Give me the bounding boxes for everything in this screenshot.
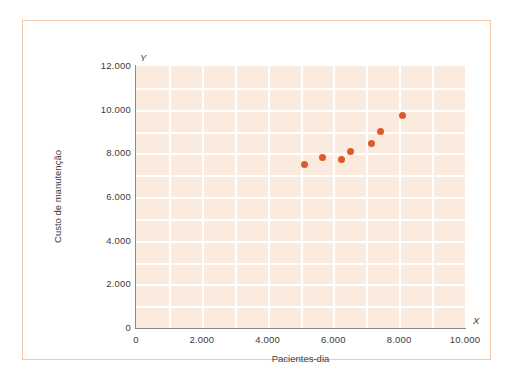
x-axis-tick-labels: 02.0004.0006.0008.00010.000 [23,334,513,350]
gridline-horizontal [136,88,465,90]
y-axis-title: Custo de manutenção [52,97,63,297]
gridline-horizontal [136,241,465,243]
x-axis-tick-label: 2.000 [172,334,232,345]
x-axis-title: Pacientes-dia [136,353,465,364]
scatter-chart-figure: 02.0004.0006.0008.00010.00012.000 02.000… [0,0,513,382]
gridline-horizontal [136,306,465,308]
x-axis-tick-label: 0 [106,334,166,345]
y-axis-letter: Y [140,52,146,63]
y-axis-tick-label: 6.000 [73,191,131,202]
x-axis-letter: X [473,315,479,326]
plot-area [136,66,465,328]
x-axis-tick-label: 6.000 [303,334,363,345]
y-axis-tick-label: 2.000 [73,278,131,289]
y-axis-tick-label: 10.000 [73,104,131,115]
y-axis-tick-label: 8.000 [73,147,131,158]
gridline-horizontal [136,263,465,265]
data-point [319,154,326,161]
gridline-horizontal [136,219,465,221]
gridline-horizontal [136,132,465,134]
data-point [399,112,406,119]
data-point [338,156,345,163]
x-axis-line [135,328,466,329]
x-axis-tick-label: 8.000 [369,334,429,345]
gridline-horizontal [136,153,465,155]
y-axis-tick-labels: 02.0004.0006.0008.00010.00012.000 [71,21,131,382]
y-axis-line [135,65,136,329]
gridline-horizontal [136,175,465,177]
data-point [377,128,384,135]
gridline-horizontal [136,197,465,199]
figure-frame: 02.0004.0006.0008.00010.00012.000 02.000… [22,20,491,360]
data-point [347,148,354,155]
gridline-horizontal [136,110,465,112]
data-point [368,140,375,147]
data-point [301,161,308,168]
gridline-horizontal [136,284,465,286]
x-axis-tick-label: 4.000 [238,334,298,345]
y-axis-tick-label: 4.000 [73,235,131,246]
y-axis-tick-label: 12.000 [73,60,131,71]
x-axis-tick-label: 10.000 [435,334,495,345]
y-axis-tick-label: 0 [73,322,131,333]
